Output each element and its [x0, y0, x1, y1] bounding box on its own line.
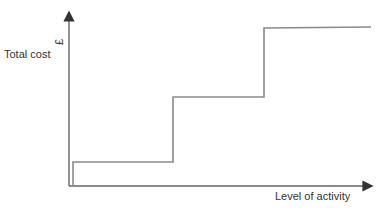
y-axis-unit: £: [53, 39, 65, 45]
x-axis-label: Level of activity: [275, 190, 350, 202]
stepped-cost-chart: [0, 0, 388, 210]
total-cost-step-line: [73, 27, 371, 186]
y-axis-label: Total cost: [4, 48, 50, 60]
